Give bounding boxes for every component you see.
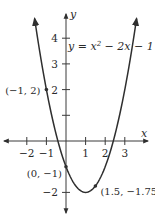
x-tick-label: 1 bbox=[82, 147, 89, 159]
point-label: (1.5, −1.75) bbox=[100, 186, 155, 197]
x-tick-label: 2 bbox=[102, 147, 109, 159]
y-tick-label: −2 bbox=[43, 186, 58, 198]
y-tick-label: 4 bbox=[51, 32, 58, 44]
x-tick-label: −1 bbox=[39, 147, 54, 159]
y-tick-label: 2 bbox=[51, 84, 58, 96]
y-axis-label: y bbox=[69, 8, 77, 21]
axes: x y bbox=[4, 8, 148, 213]
equation-label: y = x2 − 2x − 1 bbox=[67, 40, 154, 53]
x-tick-label: 3 bbox=[121, 147, 128, 159]
point-label: (−1, 2) bbox=[5, 85, 40, 96]
x-tick-label: −2 bbox=[19, 147, 34, 159]
x-axis-label: x bbox=[141, 127, 148, 140]
parabola-chart: x y −2−1123 −2234 y = x2 − 2x − 1 (−1, 2… bbox=[0, 0, 155, 220]
point-label: (0, −1) bbox=[27, 168, 62, 179]
point-marker bbox=[45, 88, 49, 92]
point-marker bbox=[64, 165, 68, 169]
point-marker bbox=[94, 184, 98, 188]
y-tick-label: 3 bbox=[51, 58, 58, 70]
